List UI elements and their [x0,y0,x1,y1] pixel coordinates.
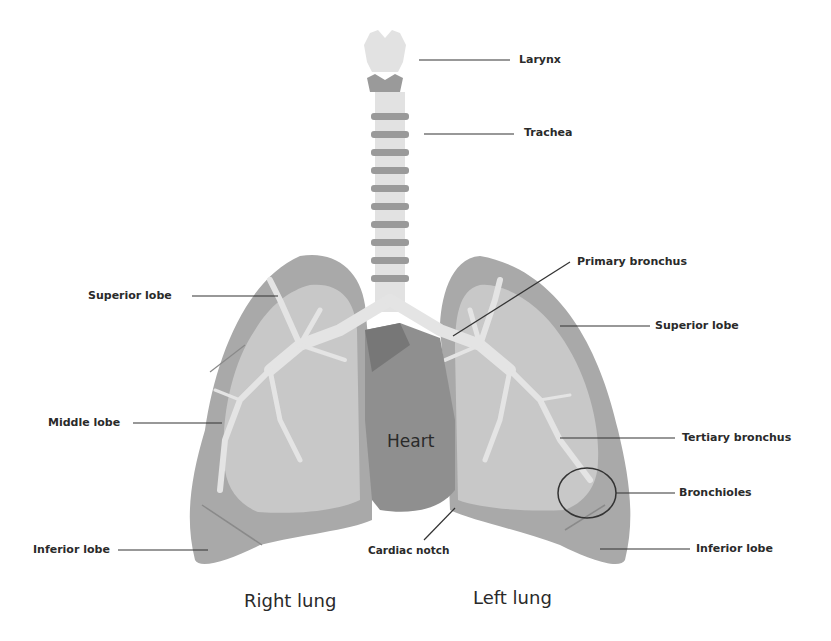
label-cardiac-notch: Cardiac notch [368,544,449,556]
label-bronchioles: Bronchioles [679,486,752,499]
label-tertiary-bronchus: Tertiary bronchus [682,431,791,444]
left-lung-shape [440,256,630,564]
label-left-inferior-lobe: Inferior lobe [696,542,773,555]
label-heart: Heart [387,431,434,451]
trachea-shape [371,92,409,312]
label-middle-lobe: Middle lobe [48,416,120,429]
label-larynx: Larynx [519,53,561,66]
label-left-lung: Left lung [473,587,552,608]
label-primary-bronchus: Primary bronchus [577,255,687,268]
larynx-shape [364,30,406,92]
label-trachea: Trachea [524,126,572,139]
label-right-lung: Right lung [244,590,336,611]
label-right-inferior-lobe: Inferior lobe [33,543,110,556]
heart-shape [365,323,455,512]
label-left-superior-lobe: Superior lobe [655,319,739,332]
label-right-superior-lobe: Superior lobe [88,289,172,302]
